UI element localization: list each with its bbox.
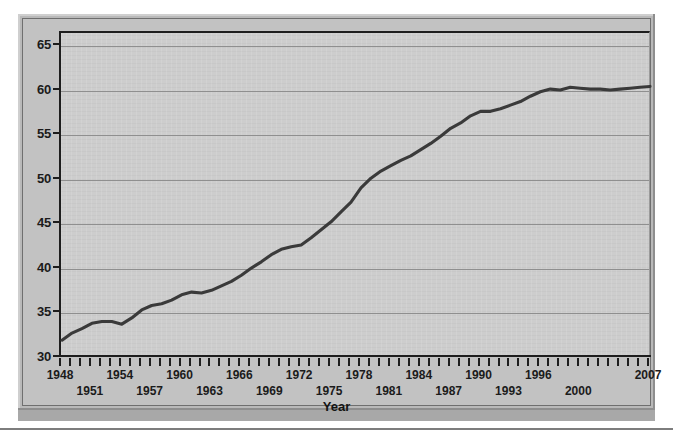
y-tick-label-65: 65 [11,37,51,52]
y-tick-label-45: 45 [11,215,51,230]
y-tick-label-55: 55 [11,126,51,141]
y-tick-label-35: 35 [11,304,51,319]
x-tick-label-1984: 1984 [405,368,432,382]
data-line [62,86,650,340]
x-tick-mark-1962 [199,358,201,366]
y-axis-title: Percent of women in workforce [0,85,1,270]
series-line [61,33,652,358]
x-tick-mark-1988 [458,358,460,366]
plot-area [59,31,650,356]
x-tick-mark-1976 [338,358,340,366]
x-tick-mark-1948 [59,358,61,366]
x-tick-label-1963: 1963 [196,384,223,398]
x-tick-label-1978: 1978 [346,368,373,382]
x-tick-mark-1966 [238,358,240,366]
x-tick-mark-1987 [448,358,450,366]
x-tick-mark-1950 [79,358,81,366]
y-tick-mark-30 [53,355,59,357]
x-tick-mark-1955 [129,358,131,366]
x-tick-mark-1960 [179,358,181,366]
x-tick-mark-1986 [438,358,440,366]
x-tick-label-1993: 1993 [495,384,522,398]
y-tick-label-30: 30 [11,349,51,364]
x-tick-mark-1956 [139,358,141,366]
x-tick-mark-1980 [378,358,380,366]
x-tick-label-1966: 1966 [226,368,253,382]
x-tick-mark-2000 [577,358,579,366]
x-tick-mark-1995 [527,358,529,366]
x-tick-mark-1973 [308,358,310,366]
x-axis-title: Year [0,399,673,414]
x-tick-mark-1957 [149,358,151,366]
y-tick-mark-45 [53,221,59,223]
x-tick-mark-1965 [228,358,230,366]
x-tick-mark-1969 [268,358,270,366]
x-tick-mark-1961 [189,358,191,366]
x-tick-mark-2005 [627,358,629,366]
x-tick-mark-1979 [368,358,370,366]
x-tick-mark-1975 [328,358,330,366]
x-tick-mark-1959 [169,358,171,366]
x-tick-mark-1970 [278,358,280,366]
chart-page: 3035404550556065 19481954196019661972197… [0,0,673,439]
x-tick-mark-1999 [567,358,569,366]
x-tick-mark-1990 [478,358,480,366]
y-tick-mark-35 [53,310,59,312]
x-tick-label-2007: 2007 [635,368,662,382]
x-tick-mark-1954 [119,358,121,366]
x-tick-label-1987: 1987 [435,384,462,398]
x-tick-mark-2001 [587,358,589,366]
x-tick-mark-1977 [348,358,350,366]
x-tick-mark-1993 [507,358,509,366]
x-tick-mark-1971 [288,358,290,366]
x-tick-mark-1951 [89,358,91,366]
x-tick-mark-1985 [428,358,430,366]
x-tick-mark-1991 [488,358,490,366]
x-tick-mark-1994 [517,358,519,366]
x-tick-label-1975: 1975 [316,384,343,398]
y-tick-mark-50 [53,177,59,179]
x-tick-label-2000: 2000 [565,384,592,398]
figure-bottom-rule [0,428,673,430]
x-tick-mark-1992 [498,358,500,366]
x-tick-label-1996: 1996 [525,368,552,382]
x-axis-line [59,355,651,357]
x-tick-mark-1998 [557,358,559,366]
x-tick-label-1948: 1948 [47,368,74,382]
x-tick-label-1951: 1951 [77,384,104,398]
x-tick-mark-1972 [298,358,300,366]
x-tick-mark-1997 [547,358,549,366]
x-tick-mark-1978 [358,358,360,366]
x-tick-mark-2006 [637,358,639,366]
y-tick-label-50: 50 [11,170,51,185]
x-tick-label-1972: 1972 [286,368,313,382]
x-tick-mark-1981 [388,358,390,366]
x-tick-label-1969: 1969 [256,384,283,398]
y-tick-label-40: 40 [11,259,51,274]
y-tick-mark-40 [53,266,59,268]
x-tick-label-1954: 1954 [106,368,133,382]
x-tick-mark-2007 [647,358,649,366]
x-tick-mark-1963 [208,358,210,366]
y-tick-mark-60 [53,88,59,90]
x-tick-label-1957: 1957 [136,384,163,398]
x-tick-mark-1996 [537,358,539,366]
x-tick-mark-1968 [258,358,260,366]
x-tick-label-1990: 1990 [465,368,492,382]
x-tick-mark-1982 [398,358,400,366]
x-tick-mark-1974 [318,358,320,366]
x-tick-mark-1964 [218,358,220,366]
x-tick-mark-1967 [248,358,250,366]
x-tick-mark-2003 [607,358,609,366]
x-tick-mark-1983 [408,358,410,366]
x-tick-label-1960: 1960 [166,368,193,382]
x-tick-mark-1958 [159,358,161,366]
x-tick-mark-1953 [109,358,111,366]
y-tick-mark-55 [53,132,59,134]
x-tick-mark-1949 [69,358,71,366]
x-tick-label-1981: 1981 [376,384,403,398]
x-tick-mark-1952 [99,358,101,366]
y-tick-mark-65 [53,43,59,45]
x-tick-mark-2002 [597,358,599,366]
x-tick-mark-1989 [468,358,470,366]
